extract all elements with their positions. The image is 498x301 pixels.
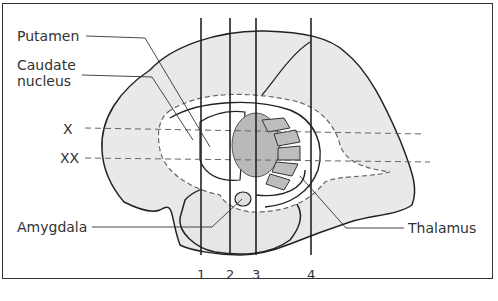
label-amygdala: Amygdala: [17, 220, 87, 235]
section-number-4: 4: [307, 268, 315, 282]
section-number-1: 1: [197, 268, 205, 282]
label-thalamus: Thalamus: [408, 221, 476, 236]
section-number-3: 3: [252, 268, 260, 282]
label-plane-xx: XX: [60, 151, 79, 166]
label-caudate-1: Caudate: [17, 58, 76, 73]
label-putamen: Putamen: [17, 29, 79, 44]
label-caudate-2: nucleus: [17, 74, 71, 89]
section-number-2: 2: [226, 268, 234, 282]
label-plane-x: X: [63, 122, 73, 137]
